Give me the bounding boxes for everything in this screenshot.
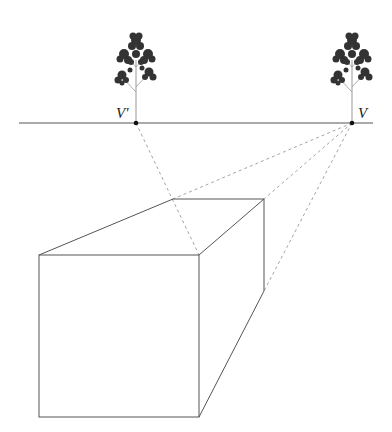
construction-line-vprime-front bbox=[136, 123, 199, 255]
construction-line-v-back-left bbox=[173, 123, 352, 199]
vanishing-point-right bbox=[350, 121, 355, 126]
vanishing-point-left bbox=[134, 121, 139, 126]
label-v-prime: V' bbox=[116, 105, 129, 121]
construction-line-v-back-right bbox=[264, 123, 352, 199]
box-front-face bbox=[39, 255, 199, 417]
box-right-face bbox=[199, 199, 264, 417]
box-top-face bbox=[39, 199, 264, 255]
perspective-diagram: V' V bbox=[0, 0, 392, 432]
label-v: V bbox=[358, 105, 369, 121]
construction-line-v-bottom-right bbox=[264, 123, 352, 291]
